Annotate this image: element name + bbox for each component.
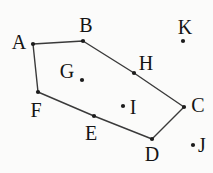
point-E-dot bbox=[92, 114, 96, 118]
point-B-label: B bbox=[79, 14, 92, 36]
point-J-label: J bbox=[198, 134, 206, 156]
point-A-label: A bbox=[12, 31, 27, 53]
point-F-label: F bbox=[30, 99, 41, 121]
geometry-diagram: ABKHGCIFEDJ bbox=[0, 0, 213, 173]
point-A-dot bbox=[31, 42, 35, 46]
point-I-label: I bbox=[130, 96, 137, 118]
point-E-label: E bbox=[85, 122, 97, 144]
geometry-svg: ABKHGCIFEDJ bbox=[0, 0, 213, 173]
point-J-dot bbox=[191, 143, 195, 147]
point-C-dot bbox=[182, 105, 186, 109]
point-K-dot bbox=[181, 39, 185, 43]
point-H-dot bbox=[132, 71, 136, 75]
point-B-dot bbox=[81, 39, 85, 43]
point-D-label: D bbox=[145, 143, 159, 165]
point-K-label: K bbox=[178, 16, 193, 38]
point-F-dot bbox=[36, 90, 40, 94]
point-I-dot bbox=[121, 104, 125, 108]
point-H-label: H bbox=[139, 52, 153, 74]
point-G-label: G bbox=[60, 60, 74, 82]
point-D-dot bbox=[150, 137, 154, 141]
point-G-dot bbox=[80, 78, 84, 82]
point-C-label: C bbox=[191, 94, 204, 116]
